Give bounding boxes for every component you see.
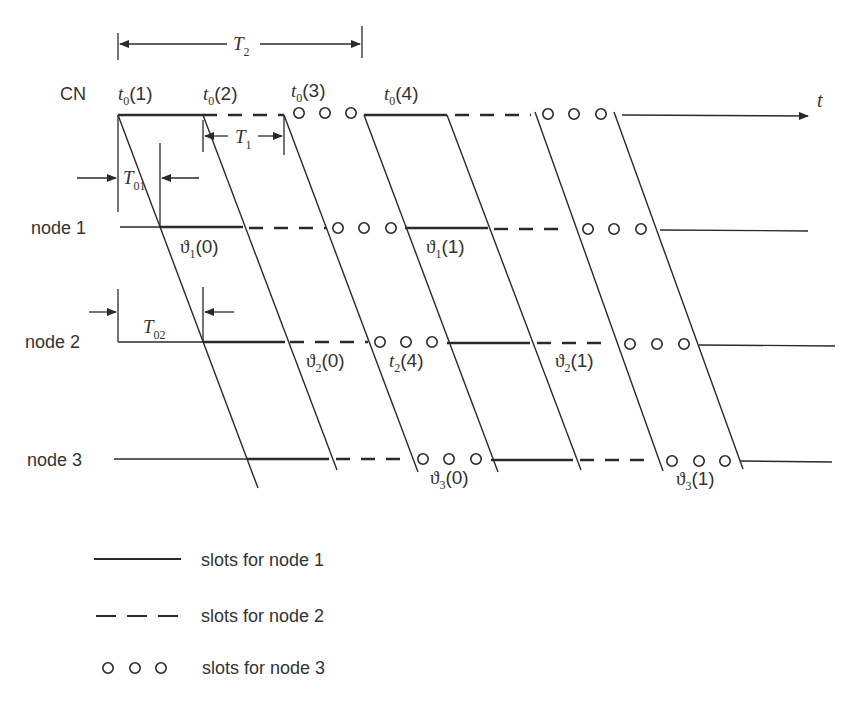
node1-label-theta1: ϑ1(1) [426, 236, 465, 261]
legend-item-node1: slots for node 1 [94, 550, 324, 570]
node2-label-theta1: ϑ2(1) [555, 350, 594, 375]
cn-slot-label-2: t0(2) [203, 83, 238, 108]
row-label-node3: node 3 [27, 450, 82, 470]
cn-timeline [118, 108, 808, 119]
t02-label: T02 [143, 316, 166, 342]
t2-label: T2 [233, 33, 250, 59]
node2-timeline [203, 337, 835, 349]
row-label-node1: node 1 [31, 218, 86, 238]
svg-text:slots for node 2: slots for node 2 [201, 606, 324, 626]
node1-timeline [120, 223, 808, 234]
time-axis-label: t [817, 89, 823, 111]
t02-dimension: T02 [89, 287, 234, 342]
node1-label-theta0: ϑ1(0) [180, 236, 219, 261]
cn-slot-label-3: t0(3) [291, 80, 326, 105]
cn-slot-label-1: t0(1) [118, 83, 153, 108]
svg-text:slots for node 1: slots for node 1 [201, 550, 324, 570]
timing-diagram: T2 CN node 1 node 2 node 3 t0(1) t0(2) t… [0, 0, 854, 715]
node3-timeline [114, 454, 832, 466]
node3-label-theta1: ϑ3(1) [676, 468, 715, 493]
row-label-node2: node 2 [25, 332, 80, 352]
legend: slots for node 1 slots for node 2 slots … [94, 550, 325, 678]
t2-dimension: T2 [118, 26, 362, 60]
cn-slot-label-4: t0(4) [384, 83, 419, 108]
t01-dimension: T01 [77, 115, 199, 228]
circle-swatch [103, 663, 113, 673]
node2-label-t4: t2(4) [389, 350, 424, 375]
row-label-cn: CN [60, 84, 86, 104]
node2-label-theta0: ϑ2(0) [306, 350, 345, 375]
svg-text:slots for node 3: slots for node 3 [202, 658, 325, 678]
propagation-lines [118, 112, 743, 488]
t1-label: T1 [235, 126, 252, 152]
node3-label-theta0: ϑ3(0) [430, 467, 469, 492]
legend-item-node2: slots for node 2 [96, 606, 324, 626]
legend-item-node3: slots for node 3 [103, 658, 325, 678]
